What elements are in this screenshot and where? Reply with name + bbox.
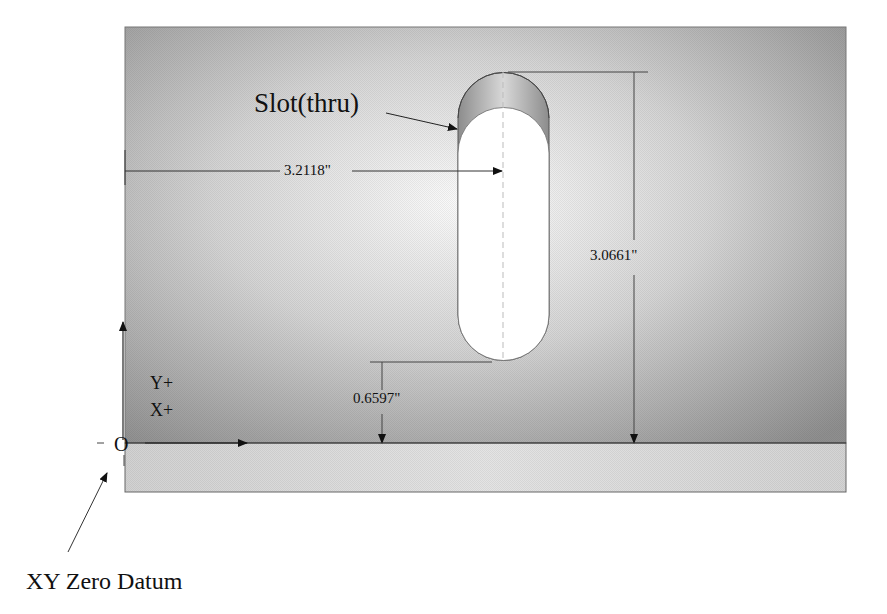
x-axis-label: X+ xyxy=(150,401,173,419)
dimension-slot-bottom-value: 0.6597" xyxy=(353,391,400,406)
dimension-slot-top-value: 3.0661" xyxy=(590,248,637,263)
dimension-x-value: 3.2118" xyxy=(284,163,331,178)
plate-front-face xyxy=(125,443,846,492)
part-drawing xyxy=(0,0,887,614)
slot-label: Slot(thru) xyxy=(254,90,359,117)
slot-feature xyxy=(458,72,549,361)
origin-label: O xyxy=(114,434,128,454)
datum-leader-arrow xyxy=(68,473,107,552)
y-axis-label: Y+ xyxy=(150,374,173,392)
drawing-canvas: Slot(thru) 3.2118" 3.0661" 0.6597" Y+ X+… xyxy=(0,0,887,614)
datum-label: XY Zero Datum xyxy=(26,569,182,593)
